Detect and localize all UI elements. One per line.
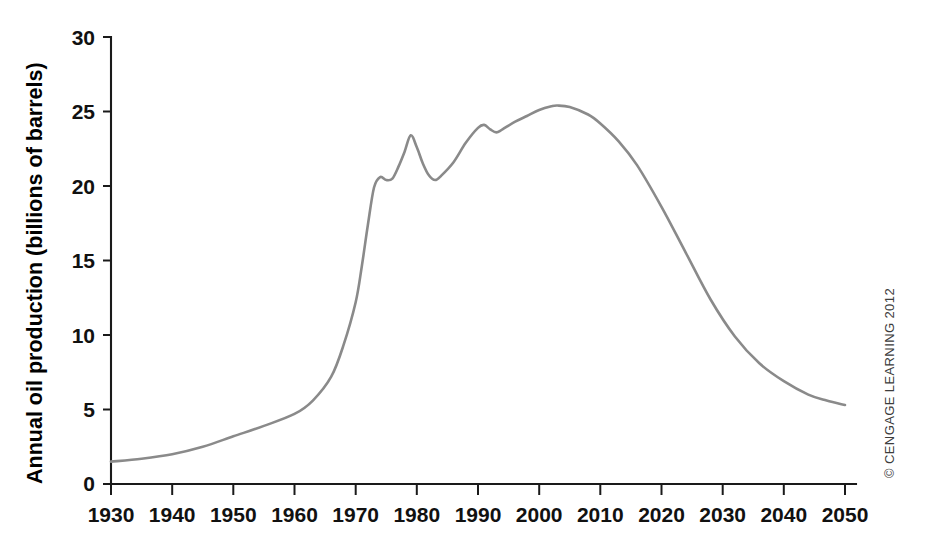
x-tick-label-1980: 1980 (393, 503, 440, 526)
x-tick-label-1940: 1940 (149, 503, 196, 526)
x-axis-ticks (111, 484, 845, 495)
y-tick-label-20: 20 (72, 175, 95, 198)
x-tick-label-2050: 2050 (822, 503, 869, 526)
y-axis-ticks (103, 37, 111, 484)
axes-group (111, 37, 856, 484)
y-axis-tick-labels: 0 5 10 15 20 25 30 (72, 26, 96, 496)
y-tick-label-10: 10 (72, 324, 95, 347)
copyright-credit: © CENGAGE LEARNING 2012 (882, 288, 897, 478)
x-tick-label-1930: 1930 (88, 503, 135, 526)
y-axis-label: Annual oil production (billions of barre… (23, 62, 47, 484)
x-tick-label-1970: 1970 (332, 503, 379, 526)
chart-figure: Annual oil production (billions of barre… (0, 0, 934, 545)
y-tick-label-0: 0 (83, 472, 95, 495)
y-tick-label-25: 25 (72, 100, 96, 123)
x-tick-label-1990: 1990 (455, 503, 502, 526)
x-tick-label-1960: 1960 (271, 503, 318, 526)
y-tick-label-15: 15 (72, 249, 96, 272)
x-tick-label-1950: 1950 (210, 503, 257, 526)
oil-production-line-chart: Annual oil production (billions of barre… (0, 0, 934, 545)
oil-production-curve (111, 105, 845, 461)
x-tick-label-2030: 2030 (699, 503, 746, 526)
x-axis-tick-labels: 1930 1940 1950 1960 1970 1980 1990 2000 … (88, 503, 869, 526)
x-tick-label-2020: 2020 (638, 503, 685, 526)
y-tick-label-30: 30 (72, 26, 95, 49)
x-tick-label-2040: 2040 (760, 503, 807, 526)
x-tick-label-2010: 2010 (577, 503, 624, 526)
y-tick-label-5: 5 (83, 398, 95, 421)
x-tick-label-2000: 2000 (516, 503, 563, 526)
